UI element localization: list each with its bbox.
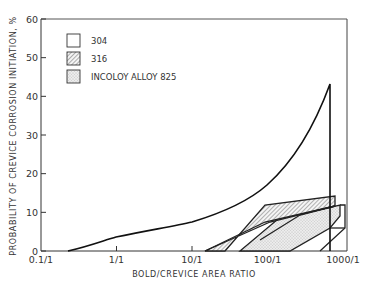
y-tick-label: 30 (26, 130, 38, 141)
legend-label-incoloy-825: INCOLOY ALLOY 825 (91, 72, 176, 82)
x-axis-title: BOLD/CREVICE AREA RATIO (132, 270, 256, 279)
x-tick-label: 1000/1 (326, 254, 359, 265)
x-tick-label: 0.1/1 (29, 254, 53, 265)
legend-swatch-316 (67, 52, 80, 65)
y-tick-label: 10 (26, 207, 38, 218)
x-tick-label: 1/1 (109, 254, 124, 265)
y-tick-label: 20 (26, 168, 38, 179)
y-tick-label: 60 (26, 14, 38, 25)
y-axis-title: PROBABILITY OF CREVICE CORROSION INITIAT… (9, 16, 18, 255)
y-tick-label: 40 (26, 91, 38, 102)
legend: 304 316 INCOLOY ALLOY 825 (67, 34, 176, 83)
legend-swatch-incoloy-825 (67, 70, 80, 83)
x-tick-label: 10/1 (181, 254, 202, 265)
legend-swatch-304 (67, 34, 80, 47)
y-axis: 0102030405060 (26, 14, 46, 257)
y-tick-label: 50 (26, 52, 38, 63)
legend-label-304: 304 (91, 36, 107, 46)
x-tick-label: 100/1 (254, 254, 281, 265)
crevice-corrosion-chart: 0102030405060 0.1/11/110/1100/11000/1 30… (0, 0, 367, 288)
legend-label-316: 316 (91, 54, 107, 64)
